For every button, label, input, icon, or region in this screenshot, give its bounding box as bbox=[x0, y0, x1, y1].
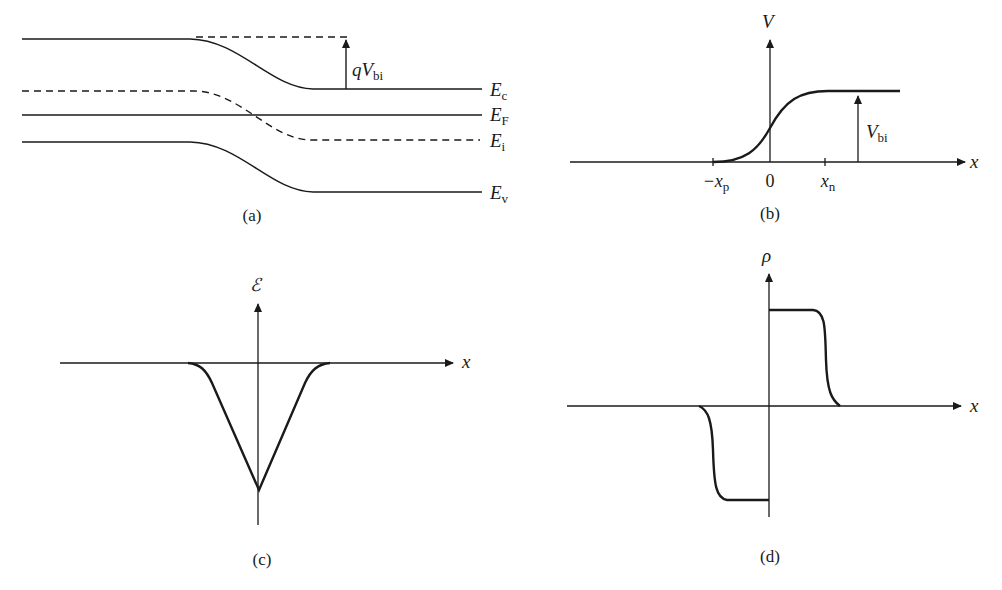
panel-d-charge-density-plot bbox=[567, 274, 961, 517]
caption-b: (b) bbox=[760, 205, 780, 222]
vbi-label: Vbi bbox=[866, 122, 888, 144]
tick-label-zero: 0 bbox=[766, 172, 775, 190]
caption-a: (a) bbox=[243, 207, 262, 224]
valence-band-line bbox=[22, 142, 482, 192]
panel-a-band-diagram bbox=[22, 37, 482, 192]
v-axis-label: V bbox=[762, 12, 774, 31]
rho-axis-label: ρ bbox=[762, 246, 771, 265]
negative-charge-curve bbox=[699, 406, 769, 500]
caption-c: (c) bbox=[253, 551, 272, 568]
ev-label: Ev bbox=[490, 183, 508, 205]
x-axis-label-d: x bbox=[970, 396, 978, 415]
field-curve bbox=[188, 363, 330, 490]
tick-label-minus-xp: −xp bbox=[703, 172, 730, 193]
ef-label: EF bbox=[490, 105, 509, 127]
positive-charge-curve bbox=[769, 310, 840, 406]
tick-label-xn: xn bbox=[821, 172, 836, 193]
ei-label: Ei bbox=[490, 131, 505, 153]
x-axis-label-b: x bbox=[970, 152, 978, 171]
panel-c-electric-field-plot bbox=[60, 304, 453, 525]
x-axis-label-c: x bbox=[462, 352, 470, 371]
caption-d: (d) bbox=[760, 548, 780, 565]
field-axis-label: ℰ bbox=[250, 276, 261, 294]
qvbi-label: qVbi bbox=[352, 60, 383, 82]
ec-label: Ec bbox=[490, 80, 507, 102]
panel-b-potential-plot bbox=[570, 40, 965, 166]
conduction-band-line bbox=[22, 39, 482, 89]
